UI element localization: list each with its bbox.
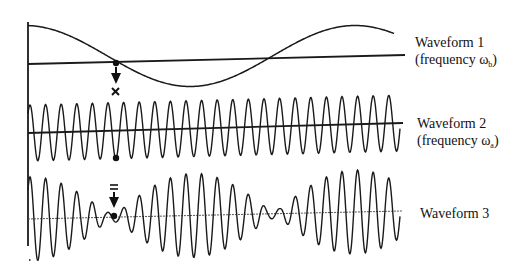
waveform-1-arrow-icon xyxy=(111,67,121,84)
waveform-1-baseline xyxy=(28,55,405,64)
waveform-2-plot xyxy=(28,95,403,161)
waveform-1-marker-dot xyxy=(113,60,119,66)
waveform-2-title: Waveform 2 xyxy=(417,115,499,132)
waveform-1-plot xyxy=(28,26,405,96)
waveform-2-marker-dot xyxy=(113,155,119,161)
waveform-1-label: Waveform 1 (frequency ωb) xyxy=(415,34,497,73)
equals-icon xyxy=(110,185,118,189)
waveform-3-arrow-icon xyxy=(109,192,119,208)
waveform-1-frequency: (frequency ωb) xyxy=(415,51,497,73)
waveform-1-title: Waveform 1 xyxy=(415,34,497,51)
waveform-3-plot xyxy=(28,170,402,260)
waveform-2-frequency: (frequency ωa) xyxy=(417,132,499,154)
waveform-3-marker-dot xyxy=(111,213,117,219)
waveform-3-title: Waveform 3 xyxy=(420,205,489,222)
cross-icon xyxy=(112,88,119,95)
waveform-3-label: Waveform 3 xyxy=(420,205,489,222)
waveform-2-label: Waveform 2 (frequency ωa) xyxy=(417,115,499,154)
axis-tick-mark xyxy=(29,259,31,261)
